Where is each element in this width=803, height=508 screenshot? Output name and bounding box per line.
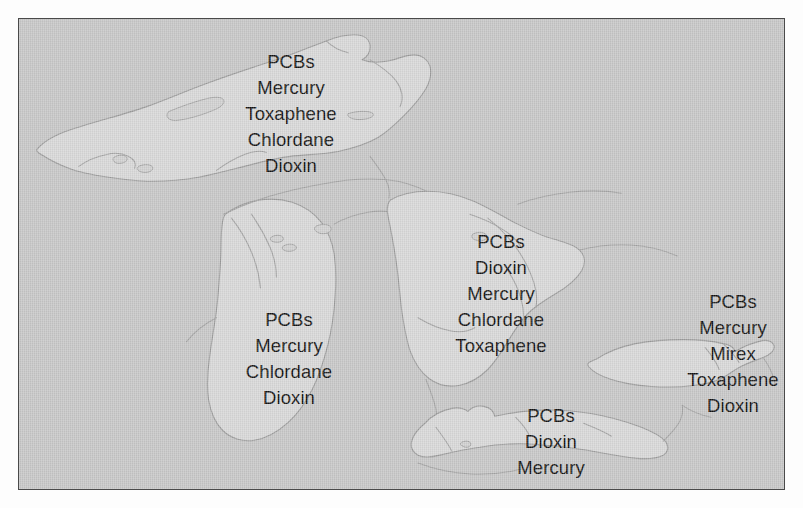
michigan-island-b (282, 244, 296, 251)
lake-michigan-contaminant-label: PCBs Mercury Chlordane Dioxin (220, 307, 358, 411)
contaminant-item: PCBs (486, 403, 616, 429)
contaminant-item: Dioxin (425, 255, 577, 281)
contaminant-item: Mercury (486, 455, 616, 481)
great-lakes-contaminant-figure: PCBs Mercury Toxaphene Chlordane Dioxin … (0, 0, 803, 508)
contaminant-item: Dioxin (659, 393, 785, 419)
map-panel: PCBs Mercury Toxaphene Chlordane Dioxin … (18, 18, 785, 490)
michigan-island-a (270, 235, 283, 242)
contaminant-item: Chlordane (220, 359, 358, 385)
contaminant-item: PCBs (659, 289, 785, 315)
contaminant-item: Toxaphene (425, 333, 577, 359)
lake-huron-contaminant-label: PCBs Dioxin Mercury Chlordane Toxaphene (425, 229, 577, 359)
contaminant-item: PCBs (215, 49, 367, 75)
contaminant-item: Mercury (425, 281, 577, 307)
contaminant-item: Chlordane (215, 127, 367, 153)
contaminant-item: PCBs (425, 229, 577, 255)
contaminant-item: PCBs (220, 307, 358, 333)
lake-superior-contaminant-label: PCBs Mercury Toxaphene Chlordane Dioxin (215, 49, 367, 179)
beaver-island-shape (315, 224, 332, 233)
contaminant-item: Dioxin (486, 429, 616, 455)
st-marys-river-line (370, 156, 389, 198)
lake-erie-contaminant-label: PCBs Dioxin Mercury (486, 403, 616, 481)
contaminant-item: Toxaphene (659, 367, 785, 393)
contaminant-item: Mercury (215, 75, 367, 101)
superior-small-island-b (137, 165, 152, 173)
contaminant-item: Mercury (659, 315, 785, 341)
contaminant-item: Dioxin (220, 385, 358, 411)
contaminant-item: Mercury (220, 333, 358, 359)
contaminant-item: Chlordane (425, 307, 577, 333)
contaminant-item: Mirex (659, 341, 785, 367)
contaminant-item: Dioxin (215, 153, 367, 179)
contaminant-item: Toxaphene (215, 101, 367, 127)
land-boundary-ontario-north (580, 245, 678, 256)
erie-island-a (460, 441, 470, 447)
land-boundary-north-huron (518, 191, 622, 204)
lake-ontario-contaminant-label: PCBs Mercury Mirex Toxaphene Dioxin (659, 289, 785, 419)
superior-small-island-a (113, 155, 127, 163)
